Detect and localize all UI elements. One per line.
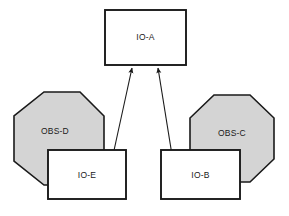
obs-d-label: OBS-D (41, 126, 69, 136)
io-a-label: IO-A (136, 32, 154, 42)
node-io-a[interactable]: IO-A (105, 10, 186, 65)
node-io-e[interactable]: IO-E (48, 150, 126, 199)
edge-layer (113, 68, 172, 155)
diagram-svg: IO-A IO-E IO-B OBS-D OBS-C (0, 0, 289, 216)
diagram-canvas: IO-A IO-E IO-B OBS-D OBS-C (0, 0, 289, 216)
edge-io-e-to-io-a[interactable] (113, 68, 132, 155)
io-b-label: IO-B (191, 170, 209, 180)
obs-c-label: OBS-C (218, 128, 246, 138)
edge-io-b-to-io-a[interactable] (158, 68, 172, 155)
io-e-label: IO-E (78, 170, 96, 180)
edge-io-e-to-io-a-line (113, 68, 132, 155)
edge-io-b-to-io-a-line (158, 68, 172, 155)
node-io-b[interactable]: IO-B (161, 150, 240, 199)
